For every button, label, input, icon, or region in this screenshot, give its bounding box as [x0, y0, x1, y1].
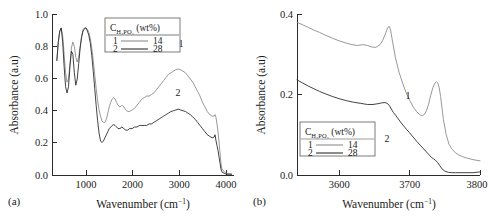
- legend-value-2-a: 28: [153, 44, 163, 54]
- x-axis-title-a: Wavenumber (cm−1): [96, 197, 190, 211]
- y-tick-label-a-2: 0.4: [35, 105, 49, 116]
- y-tick-label-b-1: 0.2: [280, 89, 293, 100]
- figure-container: 0.0 0.2 0.4 0.6 0.8 1.0 1000 2000 3000 4…: [0, 0, 498, 224]
- x-tick-label-a-3: 4000: [216, 179, 237, 190]
- legend-key-2-b: 2: [308, 148, 313, 158]
- x-tick-label-a-1: 2000: [122, 179, 143, 190]
- y-tick-label-a-3: 0.6: [35, 73, 48, 84]
- panel-label-b: (b): [253, 195, 266, 208]
- y-axis-title-b: Absorbance (a.u): [255, 55, 268, 134]
- x-tick-label-a-0: 1000: [76, 179, 97, 190]
- curve-1-annotation-b: 1: [406, 90, 411, 101]
- legend-key-2-a: 2: [113, 44, 118, 54]
- chart-panel-b: 0.0 0.2 0.4 3600 3700 3800 Wavenumber (c…: [249, 0, 498, 224]
- y-tick-label-a-0: 0.0: [35, 170, 48, 181]
- x-ticks-a: [86, 170, 226, 175]
- panel-label-a: (a): [8, 195, 21, 208]
- y-ticks-a: [52, 14, 57, 175]
- curve-2-annotation-a: 2: [176, 87, 181, 98]
- y-tick-label-a-1: 0.2: [35, 137, 48, 148]
- y-tick-label-b-0: 0.0: [280, 170, 293, 181]
- curve-2-annotation-b: 2: [385, 133, 390, 144]
- y-tick-label-a-5: 1.0: [35, 9, 48, 20]
- y-axis-title-a: Absorbance (a.u): [8, 55, 21, 134]
- x-axis-title-b: Wavenumber (cm−1): [342, 197, 436, 211]
- legend-a: CH₃PO₄ (wt%) 1 14 2 28: [105, 18, 180, 54]
- panel-b-svg: 0.0 0.2 0.4 3600 3700 3800 Wavenumber (c…: [249, 0, 498, 224]
- chart-panel-a: 0.0 0.2 0.4 0.6 0.8 1.0 1000 2000 3000 4…: [0, 0, 249, 224]
- x-tick-label-b-1: 3700: [399, 179, 420, 190]
- x-tick-label-b-0: 3600: [329, 179, 350, 190]
- legend-value-2-b: 28: [348, 148, 358, 158]
- legend-b: CH₃PO₄ (wt%) 1 14 2 28: [300, 122, 375, 158]
- y-tick-label-a-4: 0.8: [35, 41, 48, 52]
- x-tick-label-b-2: 3800: [467, 179, 488, 190]
- panel-a-svg: 0.0 0.2 0.4 0.6 0.8 1.0 1000 2000 3000 4…: [0, 0, 249, 224]
- x-tick-label-a-2: 3000: [169, 179, 190, 190]
- y-tick-label-b-2: 0.4: [280, 9, 294, 20]
